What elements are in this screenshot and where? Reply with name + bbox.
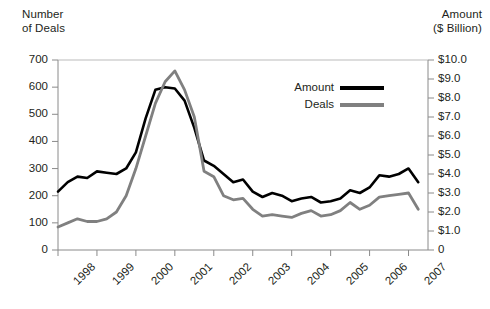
- right-tick-label: $10.0: [438, 54, 490, 66]
- dual-axis-line-chart: Number of Deals Amount ($ Billion) 01002…: [0, 0, 490, 309]
- legend-label-deals: Deals: [234, 99, 334, 111]
- left-tick-label: 100: [0, 217, 48, 229]
- left-tick-label: 0: [0, 244, 48, 256]
- left-tick-label: 700: [0, 54, 48, 66]
- legend-label-amount: Amount: [234, 82, 334, 94]
- x-axis-ticks: [58, 250, 409, 256]
- left-tick-label: 400: [0, 136, 48, 148]
- legend-swatches: [340, 88, 384, 105]
- right-tick-label: $7.0: [438, 111, 490, 123]
- right-tick-label: $9.0: [438, 73, 490, 85]
- series-line-deals: [58, 71, 418, 227]
- right-axis-ticks: [428, 60, 434, 250]
- right-tick-label: $1.0: [438, 225, 490, 237]
- right-tick-label: $5.0: [438, 149, 490, 161]
- series-lines: [58, 71, 418, 227]
- left-tick-label: 500: [0, 109, 48, 121]
- left-tick-label: 200: [0, 190, 48, 202]
- left-tick-label: 600: [0, 81, 48, 93]
- right-tick-label: $6.0: [438, 130, 490, 142]
- right-tick-label: $3.0: [438, 187, 490, 199]
- left-axis-ticks: [52, 60, 58, 250]
- right-tick-label: 0: [438, 244, 490, 256]
- right-tick-label: $2.0: [438, 206, 490, 218]
- right-tick-label: $8.0: [438, 92, 490, 104]
- left-tick-label: 300: [0, 163, 48, 175]
- right-tick-label: $4.0: [438, 168, 490, 180]
